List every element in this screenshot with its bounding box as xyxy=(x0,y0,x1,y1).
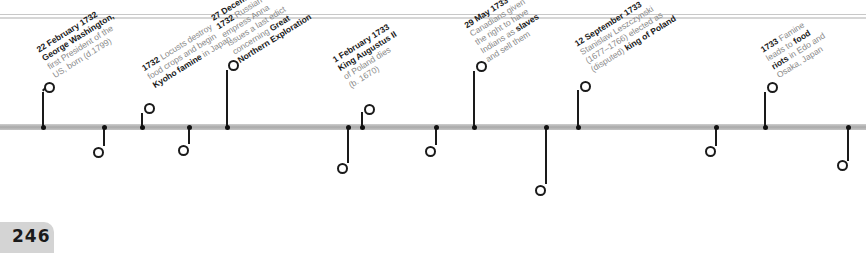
event-ring-icon xyxy=(476,61,487,72)
connector-line xyxy=(577,90,579,128)
connector-line xyxy=(226,70,228,128)
event-ring-icon xyxy=(178,145,189,156)
event-ring-icon xyxy=(144,103,155,114)
event-label: 29 May 1733 Canadians given the right to… xyxy=(463,0,546,64)
top-rule-secondary xyxy=(0,17,866,19)
timeline-dot-icon xyxy=(576,125,581,130)
event-ring-icon xyxy=(364,104,375,115)
event-ring-icon xyxy=(93,147,104,158)
timeline-dot-icon xyxy=(714,125,719,130)
page-number: 246 xyxy=(12,226,51,246)
timeline-dot-icon xyxy=(41,125,46,130)
timeline-dot-icon xyxy=(140,125,145,130)
event-ring-icon xyxy=(425,146,436,157)
connector-line xyxy=(347,127,349,163)
event-ring-icon xyxy=(767,82,778,93)
timeline-dot-icon xyxy=(102,125,107,130)
event-ring-icon xyxy=(580,81,591,92)
event-ring-icon xyxy=(228,60,239,71)
event-label: 27 December 1732 Russian empress Anna is… xyxy=(209,0,313,65)
event-ring-icon xyxy=(337,163,348,174)
timeline-dot-icon xyxy=(472,125,477,130)
timeline-dot-icon xyxy=(763,125,768,130)
event-ring-icon xyxy=(535,185,546,196)
timeline-dot-icon xyxy=(360,125,365,130)
connector-line xyxy=(42,92,44,128)
timeline-dot-icon xyxy=(187,125,192,130)
event-label: 1 February 1733 King Augustus II of Pola… xyxy=(331,20,409,90)
event-ring-icon xyxy=(705,146,716,157)
event-label: 1733 Famine leads to food riots in Edo a… xyxy=(759,14,832,80)
event-ring-icon xyxy=(837,160,848,171)
timeline-dot-icon xyxy=(846,125,851,130)
top-rule xyxy=(0,14,866,15)
timeline-dot-icon xyxy=(225,125,230,130)
timeline-bar xyxy=(0,124,866,130)
timeline-dot-icon xyxy=(544,125,549,130)
connector-line xyxy=(764,92,766,128)
connector-line xyxy=(545,127,547,184)
timeline-dot-icon xyxy=(346,125,351,130)
timeline-dot-icon xyxy=(434,125,439,130)
event-label: 12 September 1733 Stanislaw Leszczynski … xyxy=(573,0,678,74)
connector-line xyxy=(847,127,849,161)
event-ring-icon xyxy=(44,82,55,93)
connector-line xyxy=(473,71,475,128)
